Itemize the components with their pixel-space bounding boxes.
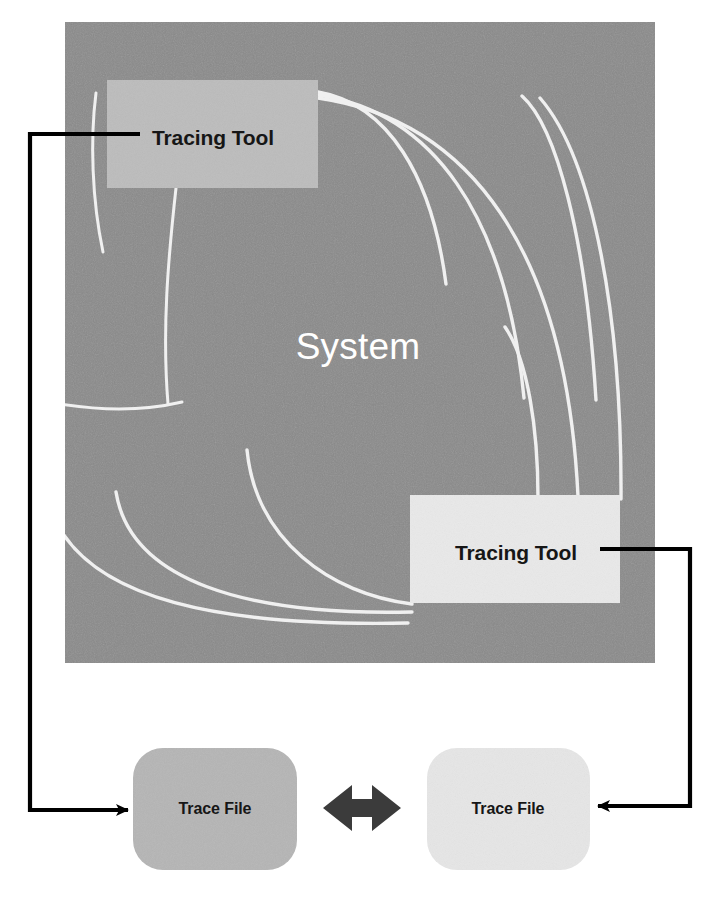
trace-file-left[interactable]: Trace File <box>133 748 297 870</box>
tracing-tool-bottom-right[interactable]: Tracing Tool <box>410 495 620 603</box>
system-label: System <box>296 326 421 367</box>
trace-file-right[interactable]: Trace File <box>427 748 590 870</box>
tracing-tool-bottom-right-label: Tracing Tool <box>455 541 577 564</box>
diagram-canvas: System Tracing Tool Tracing Tool Trace F… <box>0 0 719 903</box>
diagram-root: System Tracing Tool Tracing Tool Trace F… <box>0 0 719 903</box>
tracing-tool-top-left-label: Tracing Tool <box>152 126 274 149</box>
trace-file-right-label: Trace File <box>472 800 545 817</box>
trace-file-left-label: Trace File <box>179 800 252 817</box>
